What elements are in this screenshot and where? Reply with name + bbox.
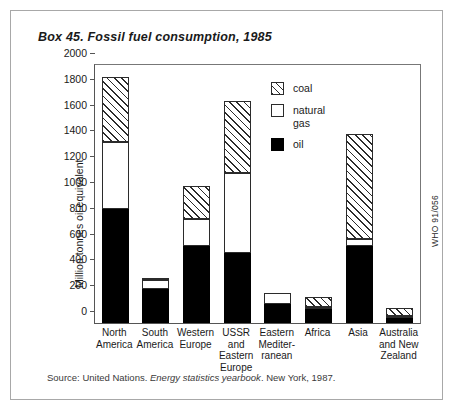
- bar-group[interactable]: [224, 101, 251, 323]
- bar-segment-natural-gas: [346, 239, 373, 245]
- bar-segment-oil: [142, 289, 169, 323]
- x-axis-tick-label: Australiaand NewZealand: [378, 327, 419, 362]
- bar-segment-natural-gas: [305, 307, 332, 310]
- bar-segment-natural-gas: [142, 280, 169, 289]
- side-code: WHO 91/056: [430, 195, 440, 247]
- y-axis-tick-label: 0: [81, 305, 87, 317]
- x-axis-tick-label: WesternEurope: [175, 327, 216, 350]
- x-axis-tick-label: SouthAmerica: [135, 327, 176, 350]
- bar-segment-coal: [183, 186, 210, 218]
- y-axis-tick: 600: [69, 228, 95, 240]
- y-axis-tick: 1200: [64, 150, 95, 162]
- bar-segment-coal: [346, 134, 373, 239]
- y-axis-tick: 0: [81, 305, 95, 317]
- legend-label: coal: [293, 82, 312, 95]
- bar-group[interactable]: [305, 297, 332, 323]
- bar-group[interactable]: [386, 308, 413, 323]
- bar-segment-oil: [346, 246, 373, 323]
- y-axis-tick-label: 1400: [64, 124, 87, 136]
- y-axis-tick: 1000: [64, 176, 95, 188]
- y-axis-tick-label: 1800: [64, 73, 87, 85]
- plot-area: Million tonnes oil equivalent 0200400600…: [94, 64, 421, 324]
- bar-segment-natural-gas: [386, 316, 413, 318]
- x-axis-tick-label: EasternMediter-ranean: [257, 327, 298, 362]
- x-axis-tick-label: NorthAmerica: [94, 327, 135, 350]
- bar-group[interactable]: [142, 278, 169, 323]
- legend-label: oil: [293, 138, 304, 151]
- bar-segment-oil: [183, 246, 210, 323]
- bars-layer: [95, 65, 420, 323]
- legend-item: natural gas: [271, 104, 325, 129]
- y-axis-tick: 400: [69, 253, 95, 265]
- bar-group[interactable]: [264, 293, 291, 323]
- y-axis-tick-label: 1200: [64, 150, 87, 162]
- y-axis-tick-label: 200: [69, 279, 87, 291]
- source-suffix: . New York, 1987.: [261, 372, 335, 383]
- legend: coalnatural gasoil: [271, 82, 325, 160]
- bar-segment-oil: [224, 253, 251, 323]
- y-axis-tick-mark: [90, 53, 95, 54]
- y-axis-tick: 200: [69, 279, 95, 291]
- y-axis-tick: 1400: [64, 124, 95, 136]
- y-axis-tick-label: 800: [69, 202, 87, 214]
- figure-box: Box 45. Fossil fuel consumption, 1985 Mi…: [10, 10, 443, 400]
- bar-segment-coal: [142, 278, 169, 281]
- bar-segment-oil: [386, 318, 413, 323]
- y-axis-tick: 1600: [64, 99, 95, 111]
- bar-segment-oil: [305, 309, 332, 323]
- bar-group[interactable]: [102, 77, 129, 323]
- legend-label: natural gas: [293, 104, 325, 129]
- bar-group[interactable]: [346, 134, 373, 323]
- legend-item: coal: [271, 82, 325, 95]
- source-note: Source: United Nations. Energy statistic…: [47, 372, 335, 383]
- legend-swatch-coal: [271, 82, 284, 95]
- y-axis-tick-label: 400: [69, 253, 87, 265]
- y-axis-tick: 1800: [64, 73, 95, 85]
- y-axis-tick-label: 1600: [64, 99, 87, 111]
- source-title: Energy statistics yearbook: [150, 372, 261, 383]
- legend-item: oil: [271, 138, 325, 151]
- bar-segment-oil: [102, 209, 129, 323]
- y-axis-tick: 800: [69, 202, 95, 214]
- y-axis-tick-label: 1000: [64, 176, 87, 188]
- bar-segment-coal: [224, 101, 251, 173]
- y-axis-tick-label: 600: [69, 228, 87, 240]
- bar-segment-natural-gas: [102, 142, 129, 209]
- bar-segment-natural-gas: [224, 173, 251, 253]
- bar-segment-coal: [102, 77, 129, 143]
- legend-swatch-oil: [271, 138, 284, 151]
- x-axis-tick-label: USSRandEasternEurope: [216, 327, 257, 373]
- y-axis-tick: 2000: [64, 47, 95, 59]
- y-axis-tick-label: 2000: [64, 47, 87, 59]
- bar-segment-oil: [264, 304, 291, 323]
- bar-group[interactable]: [183, 186, 210, 323]
- bar-segment-natural-gas: [183, 219, 210, 246]
- bar-segment-natural-gas: [264, 293, 291, 304]
- x-axis-tick-label: Africa: [297, 327, 338, 339]
- x-axis-tick-label: Asia: [338, 327, 379, 339]
- bar-segment-coal: [386, 308, 413, 316]
- bar-segment-coal: [305, 297, 332, 307]
- source-prefix: Source: United Nations.: [47, 372, 150, 383]
- legend-swatch-gas: [271, 104, 284, 117]
